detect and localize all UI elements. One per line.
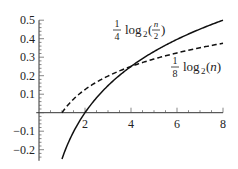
label-frac-denominator: 8 bbox=[173, 68, 178, 79]
dashed-curve bbox=[62, 43, 223, 112]
label-paren: ( bbox=[148, 22, 152, 37]
y-tick-label: 0.4 bbox=[20, 32, 35, 46]
y-tick-label: 0.3 bbox=[20, 50, 35, 64]
label-frac-numerator: 1 bbox=[173, 55, 178, 66]
y-tick-label: 0.1 bbox=[20, 87, 35, 101]
label-argument: (n) bbox=[206, 59, 221, 74]
label-subscript: 2 bbox=[201, 66, 206, 76]
label-function: log bbox=[125, 22, 142, 37]
chart: −0.2−0.10.10.20.30.40.52468 1 4 log 2 ( … bbox=[0, 0, 238, 169]
label-frac-numerator: 1 bbox=[115, 18, 120, 29]
dashed-curve-label: 1 8 log 2 (n) bbox=[171, 55, 221, 79]
x-tick-label: 2 bbox=[82, 117, 88, 131]
label-arg-numerator: n bbox=[154, 19, 159, 29]
label-arg-denominator: 2 bbox=[154, 31, 159, 41]
y-tick-label: −0.2 bbox=[13, 143, 35, 157]
curves bbox=[62, 20, 223, 159]
x-tick-label: 4 bbox=[128, 117, 134, 131]
x-tick-label: 8 bbox=[220, 117, 226, 131]
y-tick-label: 0.2 bbox=[20, 69, 35, 83]
label-paren: ) bbox=[161, 22, 165, 37]
solid-curve-label: 1 4 log 2 ( n 2 ) bbox=[113, 18, 165, 42]
label-function: log bbox=[183, 59, 200, 74]
label-frac-denominator: 4 bbox=[115, 31, 120, 42]
x-tick-label: 6 bbox=[174, 117, 180, 131]
label-subscript: 2 bbox=[143, 29, 148, 39]
axes: −0.2−0.10.10.20.30.40.52468 bbox=[13, 13, 226, 161]
y-tick-label: 0.5 bbox=[20, 13, 35, 27]
y-tick-label: −0.1 bbox=[13, 124, 35, 138]
